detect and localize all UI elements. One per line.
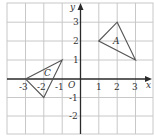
y-tick-label: -2 xyxy=(69,111,78,121)
triangle-c-label: C xyxy=(44,68,51,78)
x-axis-label: x xyxy=(146,80,151,90)
y-tick-label: 2 xyxy=(73,36,79,46)
y-tick-label: -1 xyxy=(69,93,78,103)
y-tick-labels: 3 2 1 -1 -2 xyxy=(69,17,79,121)
x-tick-label: 2 xyxy=(114,82,120,92)
diagram-canvas: x y O -3 -2 -1 1 2 3 3 2 1 -1 -2 A C xyxy=(0,0,154,138)
triangle-a-label: A xyxy=(112,36,120,46)
y-axis-arrow-icon xyxy=(78,3,84,10)
coordinate-diagram: x y O -3 -2 -1 1 2 3 3 2 1 -1 -2 A C xyxy=(0,0,154,138)
y-axis-label: y xyxy=(69,2,76,12)
x-tick-label: -2 xyxy=(37,82,46,92)
x-tick-label: -3 xyxy=(19,82,28,92)
origin-label: O xyxy=(68,80,76,90)
x-tick-label: -1 xyxy=(55,82,64,92)
y-tick-label: 3 xyxy=(73,17,79,27)
x-tick-label: 1 xyxy=(96,82,102,92)
y-tick-label: 1 xyxy=(73,55,79,65)
x-tick-label: 3 xyxy=(132,82,138,92)
